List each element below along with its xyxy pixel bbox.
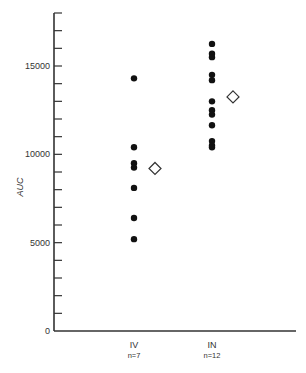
- data-point-in: [209, 144, 215, 150]
- data-point-in: [209, 122, 215, 128]
- data-point-iv: [131, 215, 137, 221]
- y-axis-label: AUC: [15, 177, 25, 198]
- category-labels: IVn=7INn=12: [128, 340, 221, 360]
- category-n-label: n=12: [204, 351, 221, 360]
- mean-diamond-in: [227, 91, 239, 103]
- data-point-in: [209, 77, 215, 83]
- mean-diamond-iv: [149, 162, 161, 174]
- auc-dot-plot: 050001000015000 AUC IVn=7INn=12: [0, 0, 306, 373]
- category-label: IV: [130, 340, 139, 350]
- category-n-label: n=7: [128, 351, 141, 360]
- data-point-in: [209, 54, 215, 60]
- data-point-in: [209, 41, 215, 47]
- data-point-iv: [131, 164, 137, 170]
- data-point-iv: [131, 144, 137, 150]
- data-point-iv: [131, 75, 137, 81]
- y-ticks: [54, 13, 62, 313]
- category-label: IN: [208, 340, 217, 350]
- y-tick-label: 0: [45, 326, 50, 336]
- y-tick-label: 15000: [25, 61, 50, 71]
- data-point-iv: [131, 185, 137, 191]
- y-tick-label: 5000: [30, 238, 50, 248]
- data-point-in: [209, 98, 215, 104]
- axes: [54, 13, 296, 331]
- group-means: [149, 91, 239, 175]
- y-tick-labels: 050001000015000: [25, 61, 50, 336]
- data-point-iv: [131, 236, 137, 242]
- data-points: [131, 41, 215, 243]
- data-point-in: [209, 111, 215, 117]
- y-tick-label: 10000: [25, 149, 50, 159]
